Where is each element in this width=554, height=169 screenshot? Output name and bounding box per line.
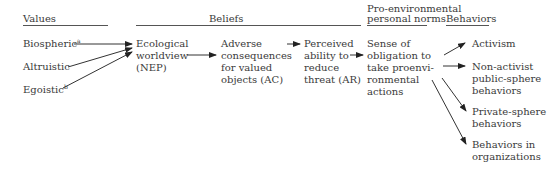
arrows-layer [0,0,554,169]
arrow-egoistic-nep [63,52,132,88]
arrow-obligation-organizations [432,80,466,144]
arrow-obligation-activism [444,43,465,55]
